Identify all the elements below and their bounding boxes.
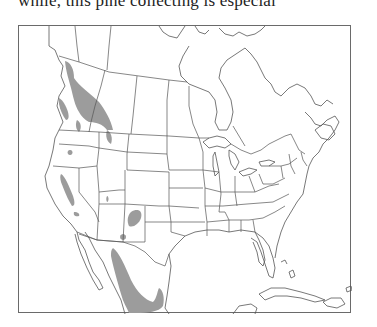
range-map bbox=[18, 25, 351, 313]
range-bc-main bbox=[65, 61, 113, 130]
page-caption-fragment: while, this pine collecting is especial bbox=[18, 0, 377, 11]
species-range bbox=[59, 61, 164, 313]
range-washington bbox=[76, 120, 81, 132]
range-colorado bbox=[128, 210, 142, 227]
range-sierra-madre bbox=[111, 248, 164, 313]
range-sierra-nevada bbox=[60, 174, 74, 206]
range-southern-california bbox=[74, 212, 79, 216]
political-borders bbox=[53, 26, 307, 266]
range-oregon-dot bbox=[68, 150, 73, 155]
range-vancouver-island bbox=[59, 98, 69, 120]
range-utah bbox=[106, 196, 108, 202]
north-america-map bbox=[19, 26, 352, 314]
range-idaho bbox=[106, 130, 112, 144]
